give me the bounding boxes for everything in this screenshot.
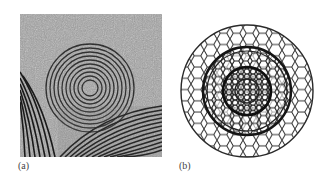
panel-a-label: (a) [18,160,29,171]
fullerene-onion-model-image [178,22,316,160]
panel-a-micrograph [20,14,162,157]
panel-b-label: (b) [179,160,191,171]
tem-micrograph-image [20,14,162,157]
panel-b-model [178,22,316,160]
